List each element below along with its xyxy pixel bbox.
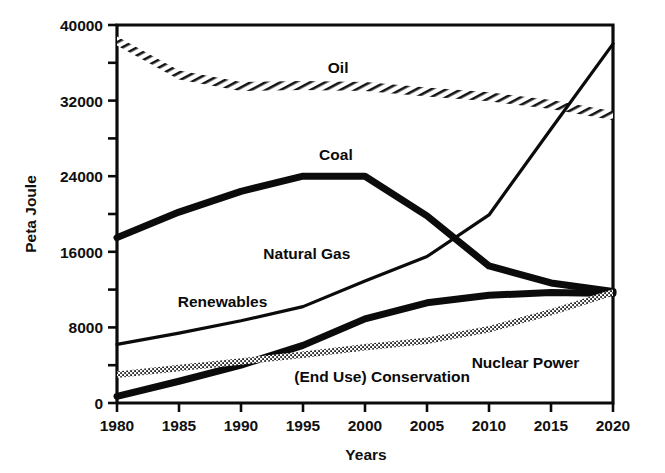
y-tick-label: 40000 bbox=[60, 17, 103, 34]
x-tick-label: 1980 bbox=[100, 417, 134, 434]
y-tick-label: 32000 bbox=[60, 93, 103, 110]
x-tick-label: 2010 bbox=[472, 417, 506, 434]
series-label-oil: Oil bbox=[328, 59, 349, 76]
y-tick-label: 16000 bbox=[60, 244, 103, 261]
x-tick-label: 1985 bbox=[162, 417, 197, 434]
chart-container: OilCoalNatural GasRenewables(End Use) Co… bbox=[0, 0, 665, 473]
series-label-coal: Coal bbox=[319, 146, 353, 163]
x-tick-label: 2015 bbox=[534, 417, 569, 434]
series-label-natural-gas: Natural Gas bbox=[263, 245, 350, 262]
y-tick-label: 24000 bbox=[60, 168, 103, 185]
x-tick-label: 1995 bbox=[286, 417, 321, 434]
x-tick-label: 2020 bbox=[596, 417, 630, 434]
x-tick-label: 2005 bbox=[410, 417, 445, 434]
series-label-end-use-conservation: (End Use) Conservation bbox=[294, 368, 470, 385]
energy-mix-line-chart: OilCoalNatural GasRenewables(End Use) Co… bbox=[0, 0, 665, 473]
x-tick-label: 2000 bbox=[348, 417, 382, 434]
x-axis-title: Years bbox=[345, 446, 386, 463]
y-tick-label: 0 bbox=[94, 395, 103, 412]
y-axis-title: Peta Joule bbox=[22, 175, 39, 253]
series-label-nuclear-power: Nuclear Power bbox=[472, 354, 580, 371]
x-tick-label: 1990 bbox=[224, 417, 258, 434]
y-tick-label: 8000 bbox=[69, 319, 103, 336]
series-label-renewables: Renewables bbox=[178, 293, 268, 310]
